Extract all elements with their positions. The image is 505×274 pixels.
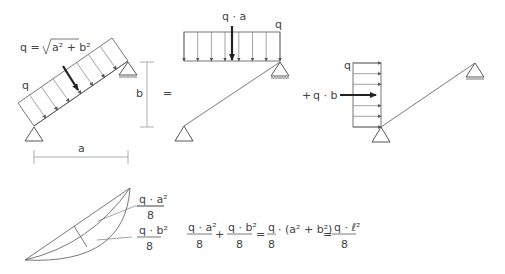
moment-label-b-den: 8 xyxy=(146,240,153,253)
roller-support-right-3 xyxy=(466,63,484,77)
inclined-beam-2 xyxy=(184,62,280,126)
eq-term3-den: 8 xyxy=(268,238,275,251)
inclined-beam-3 xyxy=(381,63,475,127)
figure-horizontal-load: q q · b xyxy=(313,59,484,142)
leader-b xyxy=(97,237,132,240)
load-q-label: q xyxy=(22,79,29,92)
eq-equals-2: = xyxy=(323,228,332,241)
eq-term3-num: q xyxy=(268,221,275,234)
load-q-label-3: q xyxy=(344,59,351,72)
eq-term4-den: 8 xyxy=(341,238,348,251)
equation: q · a² 8 + q · b² 8 = q 8 · (a² + b²) = … xyxy=(187,221,360,251)
eq-term2-num: q · b² xyxy=(228,221,257,234)
load-q-label-2: q xyxy=(275,18,282,31)
plus-operator: + xyxy=(302,89,311,102)
figure-vertical-load: q · a q xyxy=(175,10,289,141)
resultant-arrow xyxy=(63,66,78,90)
formula-lhs: q = xyxy=(20,41,40,54)
resultant-qa-label: q · a xyxy=(222,10,246,23)
pin-support-left xyxy=(25,127,43,141)
resultant-qb-label: q · b xyxy=(313,89,337,102)
structural-diagram: a b q q = a² + b² = q · a xyxy=(0,0,505,274)
figure-inclined-beam: a b q q = a² + b² xyxy=(18,38,154,164)
pin-support-left-2 xyxy=(175,126,193,141)
eq-term2-den: 8 xyxy=(236,238,243,251)
moment-label-b-num: q · b² xyxy=(139,224,168,237)
dim-b-label: b xyxy=(136,87,143,100)
eq-term4-num: q · ℓ² xyxy=(334,221,360,234)
roller-support-right-2 xyxy=(271,62,289,76)
dim-a-label: a xyxy=(78,142,85,155)
roller-support-right xyxy=(119,62,137,75)
eq-term1-den: 8 xyxy=(196,238,203,251)
chord-line xyxy=(25,188,130,260)
eq-plus: + xyxy=(215,228,224,241)
moment-label-a-den: 8 xyxy=(147,209,154,222)
pin-support-left-3 xyxy=(372,127,390,142)
leader-a xyxy=(98,206,135,221)
equals-operator: = xyxy=(163,87,172,100)
ordinate-marker xyxy=(74,226,87,247)
formula-sqrt-body: a² + b² xyxy=(52,41,91,54)
moment-label-a-num: q · a² xyxy=(139,193,168,206)
eq-equals-1: = xyxy=(256,228,265,241)
eq-term1-num: q · a² xyxy=(188,221,217,234)
